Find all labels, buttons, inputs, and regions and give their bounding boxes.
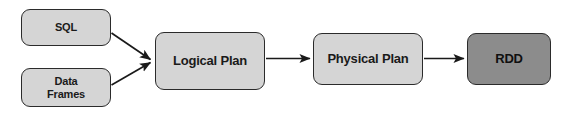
edge-sql-to-logical	[112, 33, 151, 60]
edge-dataframes-to-logical	[112, 63, 151, 86]
node-sql: SQL	[21, 9, 111, 46]
node-physical-plan-label: Physical Plan	[327, 52, 408, 67]
node-physical-plan: Physical Plan	[313, 33, 423, 85]
node-dataframes: Data Frames	[21, 68, 111, 107]
node-dataframes-label: Data Frames	[47, 75, 85, 100]
node-logical-plan: Logical Plan	[155, 32, 265, 90]
node-logical-plan-label: Logical Plan	[173, 54, 247, 69]
node-sql-label: SQL	[55, 21, 77, 33]
node-rdd-label: RDD	[495, 52, 523, 67]
node-rdd: RDD	[467, 33, 551, 85]
diagram-canvas: SQL Data Frames Logical Plan Physical Pl…	[0, 0, 567, 114]
